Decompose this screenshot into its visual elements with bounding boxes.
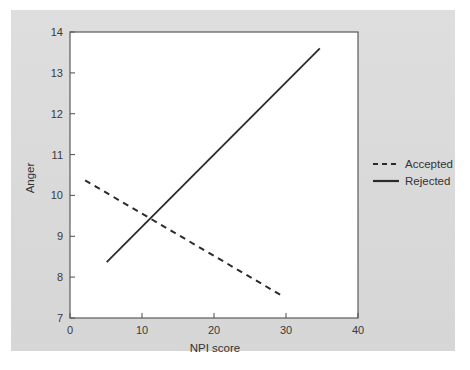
x-axis-title: NPI score: [190, 342, 241, 354]
y-axis-tick-labels: 7 8 9 10 11 12 13 14: [51, 26, 63, 324]
legend-label-rejected: Rejected: [405, 175, 450, 187]
x-tick-label: 40: [352, 324, 364, 336]
x-axis-tick-labels: 0 10 20 30 40: [67, 324, 364, 336]
y-tick-label: 8: [57, 271, 63, 283]
y-tick-label: 9: [57, 230, 63, 242]
legend: Accepted Rejected: [373, 158, 453, 187]
y-tick-label: 11: [52, 149, 63, 161]
x-tick-label: 20: [208, 324, 220, 336]
y-tick-label: 13: [51, 67, 63, 79]
y-tick-label: 10: [51, 189, 63, 201]
legend-label-accepted: Accepted: [405, 158, 453, 170]
x-tick-label: 0: [67, 324, 73, 336]
y-tick-label: 7: [57, 312, 63, 324]
figure-container: 7 8 9 10 11 12 13 14 0 10 20 30 40 NPI s…: [0, 0, 470, 370]
y-tick-label: 14: [51, 26, 63, 38]
line-chart: 7 8 9 10 11 12 13 14 0 10 20 30 40 NPI s…: [0, 0, 470, 370]
x-tick-label: 10: [136, 324, 148, 336]
y-axis-title: Anger: [24, 162, 36, 193]
x-tick-label: 30: [280, 324, 292, 336]
y-tick-label: 12: [51, 108, 63, 120]
plot-area-background: [70, 32, 358, 318]
